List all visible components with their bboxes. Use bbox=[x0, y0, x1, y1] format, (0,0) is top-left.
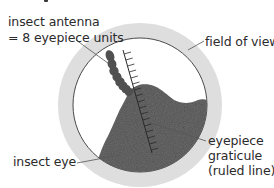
label-graticule-line1: eyepiece bbox=[208, 134, 264, 148]
diagram-stage: insect antenna = 8 eyepiece units field … bbox=[0, 0, 274, 188]
label-insect-eye: insect eye bbox=[13, 155, 76, 169]
label-field-of-view: field of view bbox=[205, 35, 274, 49]
label-graticule-line3: (ruled line) bbox=[208, 164, 274, 178]
label-antenna-measurement: = 8 eyepiece units bbox=[8, 31, 124, 45]
label-graticule-line2: graticule bbox=[208, 149, 262, 163]
label-insect-antenna: insect antenna bbox=[8, 15, 100, 29]
